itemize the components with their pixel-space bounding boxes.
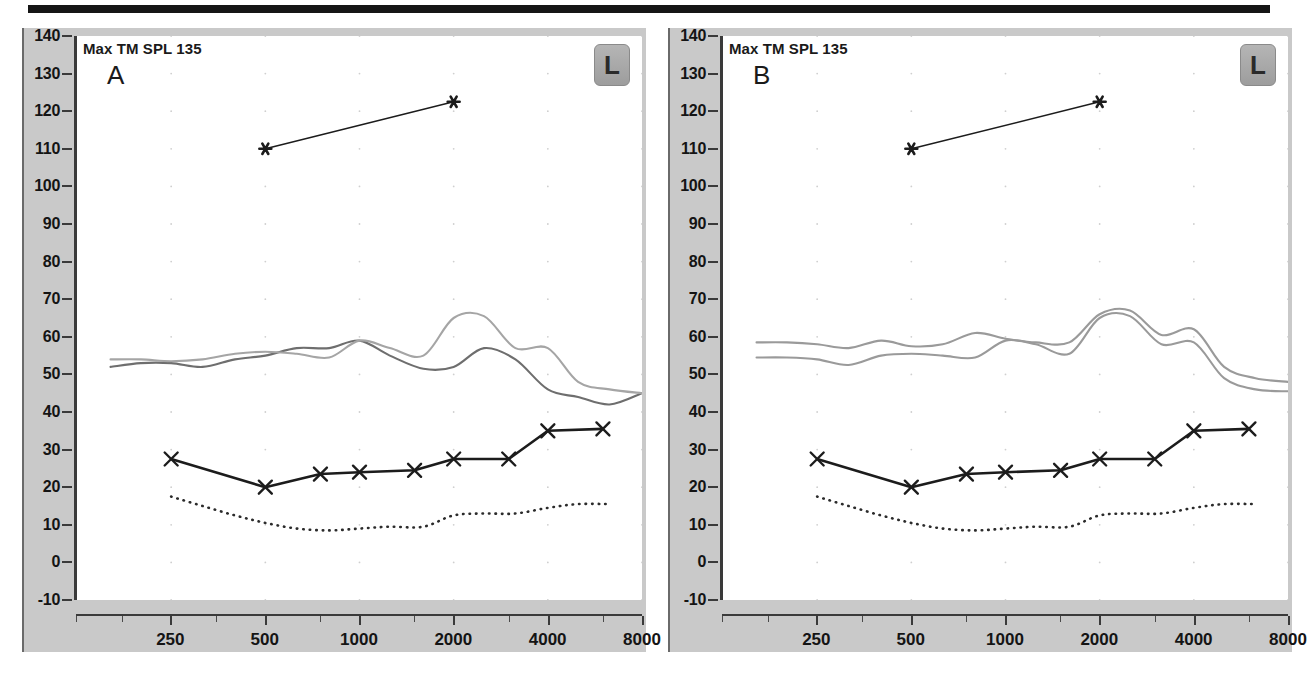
y-tick-mark	[62, 73, 72, 75]
y-tick-mark	[708, 373, 718, 375]
plot-area-a: Max TM SPL 135 A L	[76, 36, 642, 600]
y-axis-labels-a: 1401301201101009080706050403020100-10	[22, 28, 76, 652]
x-tick-major	[265, 616, 267, 625]
grid-dots	[170, 36, 642, 600]
x-tick-label: 4000	[1175, 630, 1213, 650]
top-rule	[28, 5, 1270, 13]
x-tick-major	[170, 616, 172, 625]
y-tick-mark	[708, 110, 718, 112]
y-tick-label: 90	[43, 215, 60, 233]
panel-title-a: Max TM SPL 135	[83, 40, 202, 57]
x-tick-label: 2000	[1080, 630, 1118, 650]
x-tick-minor	[509, 616, 510, 622]
series-unaided-noise-floor-dotted	[171, 497, 609, 531]
x-axis-a: 2505001000200040008000	[76, 614, 642, 616]
y-tick-mark	[62, 599, 72, 601]
y-tick-mark	[708, 449, 718, 451]
x-tick-label: 500	[250, 630, 278, 650]
x-tick-label: 500	[896, 630, 924, 650]
y-tick-mark	[62, 223, 72, 225]
x-tick-major	[359, 616, 361, 625]
x-tick-label: 8000	[1269, 630, 1307, 650]
y-tick-mark	[708, 599, 718, 601]
y-tick-label: 20	[43, 478, 60, 496]
y-tick-mark	[62, 148, 72, 150]
y-tick-label: 40	[43, 403, 60, 421]
y-tick-label: 100	[34, 177, 60, 195]
y-tick-mark	[708, 73, 718, 75]
y-tick-mark	[62, 35, 72, 37]
x-tick-label: 250	[156, 630, 184, 650]
series-aided-response-dark-gray	[111, 340, 642, 404]
x-tick-minor	[320, 616, 321, 622]
panel-title-b: Max TM SPL 135	[729, 40, 848, 57]
y-tick-label: 110	[681, 140, 706, 158]
grid-dots	[816, 36, 1288, 600]
y-tick-label: 90	[689, 215, 706, 233]
y-tick-mark	[62, 449, 72, 451]
y-tick-mark	[708, 411, 718, 413]
x-tick-minor	[1155, 616, 1156, 622]
y-tick-mark	[62, 298, 72, 300]
y-axis-labels-b: 1401301201101009080706050403020100-10	[668, 28, 722, 652]
y-tick-label: 10	[43, 516, 60, 534]
y-tick-label: 110	[35, 140, 60, 158]
y-tick-label: 70	[43, 290, 60, 308]
x-tick-major	[548, 616, 550, 625]
chart-panel-b: 1401301201101009080706050403020100-10 Ma…	[668, 28, 1290, 652]
y-tick-mark	[62, 486, 72, 488]
x-tick-label: 1000	[986, 630, 1024, 650]
y-tick-mark	[708, 561, 718, 563]
y-tick-label: 60	[689, 328, 706, 346]
x-tick-label: 8000	[623, 630, 661, 650]
chart-panel-a: 1401301201101009080706050403020100-10 Ma…	[22, 28, 644, 652]
series-threshold-x-marker	[811, 422, 1256, 493]
y-tick-mark	[708, 524, 718, 526]
x-tick-major	[1288, 616, 1290, 625]
series-ucl-asterisk	[259, 97, 459, 154]
y-tick-label: 80	[689, 253, 706, 271]
y-tick-label: 130	[34, 65, 60, 83]
x-tick-label: 2000	[434, 630, 472, 650]
ear-badge-b[interactable]: L	[1240, 44, 1276, 86]
y-tick-label: 50	[43, 365, 60, 383]
y-tick-mark	[62, 185, 72, 187]
panel-letter-b: B	[753, 60, 770, 91]
x-tick-major	[911, 616, 913, 625]
y-tick-mark	[62, 336, 72, 338]
y-tick-label: 30	[689, 441, 706, 459]
y-tick-label: 20	[689, 478, 706, 496]
x-tick-minor	[966, 616, 967, 622]
y-tick-mark	[62, 110, 72, 112]
y-tick-label: 140	[680, 27, 706, 45]
x-tick-major	[1194, 616, 1196, 625]
x-tick-label: 250	[802, 630, 830, 650]
y-tick-label: 40	[689, 403, 706, 421]
y-tick-mark	[708, 336, 718, 338]
series-threshold-x-marker	[165, 422, 610, 493]
y-tick-label: 0	[697, 553, 706, 571]
series-aided-response-upper-gray	[757, 309, 1288, 382]
x-tick-major	[816, 616, 818, 625]
y-tick-mark	[62, 561, 72, 563]
y-tick-mark	[62, 524, 72, 526]
y-tick-mark	[708, 298, 718, 300]
series-unaided-noise-floor-dotted	[817, 497, 1255, 531]
x-tick-minor	[76, 616, 77, 622]
x-tick-minor	[722, 616, 723, 622]
y-tick-label: 130	[680, 65, 706, 83]
x-tick-minor	[414, 616, 415, 622]
y-tick-label: 0	[51, 553, 60, 571]
x-tick-minor	[768, 616, 769, 622]
plot-svg-a	[77, 36, 642, 600]
y-tick-mark	[708, 486, 718, 488]
y-tick-mark	[62, 411, 72, 413]
panel-letter-a: A	[107, 60, 124, 91]
y-tick-label: 120	[680, 102, 706, 120]
ear-badge-a[interactable]: L	[594, 44, 630, 86]
x-tick-minor	[1249, 616, 1250, 622]
x-tick-label: 4000	[529, 630, 567, 650]
series-aided-response-light-gray	[111, 313, 642, 394]
y-tick-label: 70	[689, 290, 706, 308]
y-tick-label: -10	[684, 591, 706, 609]
